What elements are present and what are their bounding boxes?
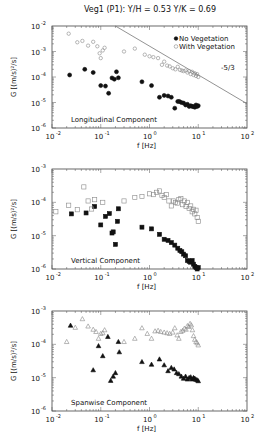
data-point (150, 84, 154, 88)
data-point (116, 76, 120, 80)
x-tick-label: 10 (94, 416, 103, 424)
x-tick-label-exponent: -2 (56, 130, 61, 136)
data-point (103, 214, 107, 218)
data-point (169, 95, 173, 99)
data-point (162, 363, 167, 367)
y-tick-label: 10 (31, 341, 40, 349)
series-with-vegetation (64, 317, 200, 347)
x-tick-label: 10 (94, 133, 103, 141)
data-point (149, 336, 154, 340)
data-point (91, 327, 96, 331)
data-point (91, 71, 95, 75)
data-point (145, 331, 150, 335)
data-point (113, 370, 118, 374)
x-tick-label-exponent: -1 (105, 413, 110, 419)
data-point (176, 65, 179, 68)
data-point (143, 53, 146, 56)
data-point (114, 70, 118, 74)
data-point (69, 212, 73, 216)
data-point (96, 336, 101, 340)
figure: Veg1 (P1): Y/H = 0.53 Y/K = 0.69 10-210-… (0, 0, 267, 443)
x-tick-label-exponent: 2 (251, 413, 254, 419)
data-point (81, 39, 84, 42)
data-point (140, 194, 144, 198)
data-point (191, 334, 196, 338)
x-tick-label-exponent: 2 (251, 130, 254, 136)
data-point (184, 254, 188, 258)
data-point (64, 339, 69, 343)
data-point (196, 266, 200, 270)
x-axis-label: f [Hz] (137, 142, 156, 150)
plot-frame (52, 311, 247, 411)
data-point (103, 84, 107, 88)
panel-vertical-component: 10-210-110010110210-610-510-410-3f [Hz]G… (10, 163, 254, 291)
y-tick-label: 10 (31, 308, 40, 316)
y-tick-label-exponent: -6 (41, 405, 46, 411)
data-point (93, 198, 97, 202)
data-point (196, 104, 200, 108)
data-point (68, 73, 72, 77)
y-tick-label-exponent: -3 (41, 163, 46, 169)
y-tick-label: 10 (31, 199, 40, 207)
x-tick-label-exponent: -2 (56, 271, 61, 277)
y-tick-label-exponent: -4 (41, 338, 46, 344)
x-tick-label-exponent: 0 (154, 130, 157, 136)
data-point (140, 326, 145, 330)
x-tick-label-exponent: 0 (154, 271, 157, 277)
x-tick-label-exponent: -2 (56, 413, 61, 419)
x-tick-label-exponent: 0 (154, 413, 157, 419)
data-point (162, 237, 166, 241)
data-point (82, 185, 86, 189)
data-point (148, 55, 151, 58)
legend-marker (174, 45, 178, 49)
y-tick-label-exponent: -2 (41, 20, 46, 26)
x-tick-label: 10 (46, 133, 55, 141)
data-point (160, 63, 163, 66)
data-point (162, 60, 165, 63)
data-point (91, 368, 96, 372)
data-point (54, 210, 58, 214)
data-point (113, 242, 117, 246)
y-tick-label-exponent: -6 (41, 263, 46, 269)
x-axis-label: f [Hz] (137, 425, 156, 433)
y-tick-label-exponent: -3 (41, 46, 46, 52)
data-point (157, 189, 161, 193)
x-tick-label: 10 (241, 416, 250, 424)
data-point (86, 44, 89, 47)
component-annotation: Vertical Component (71, 257, 140, 265)
data-point (96, 344, 101, 348)
series-with-vegetation (54, 185, 201, 224)
data-point (152, 55, 155, 58)
data-point (73, 325, 78, 329)
data-point (162, 93, 166, 97)
data-point (133, 336, 138, 340)
y-tick-label: 10 (31, 266, 40, 274)
data-point (99, 56, 102, 59)
y-tick-label: 10 (31, 125, 40, 133)
x-tick-label-exponent: -1 (105, 271, 110, 277)
legend-entry: With Vegetation (179, 43, 235, 51)
data-point (133, 195, 137, 199)
y-tick-label: 10 (31, 166, 40, 174)
x-tick-label: 10 (94, 274, 103, 282)
x-axis-label: f [Hz] (137, 283, 156, 291)
data-point (96, 45, 99, 48)
data-point (115, 219, 119, 223)
data-point (172, 326, 177, 330)
data-point (140, 225, 144, 229)
data-point (99, 84, 103, 88)
data-point (184, 69, 187, 72)
y-tick-label-exponent: -5 (41, 372, 46, 378)
y-tick-label: 10 (31, 233, 40, 241)
data-point (156, 56, 159, 59)
data-point (108, 378, 113, 382)
y-tick-label: 10 (31, 23, 40, 31)
panel-longitudinal-component: 10-210-110010110210-610-510-410-310-2f [… (10, 20, 254, 150)
figure-title: Veg1 (P1): Y/H = 0.53 Y/K = 0.69 (84, 5, 216, 14)
x-tick-label: 10 (241, 133, 250, 141)
data-point (68, 323, 73, 327)
x-tick-label: 10 (46, 274, 55, 282)
plot-frame (52, 169, 247, 269)
data-point (86, 324, 91, 328)
data-point (103, 46, 106, 49)
